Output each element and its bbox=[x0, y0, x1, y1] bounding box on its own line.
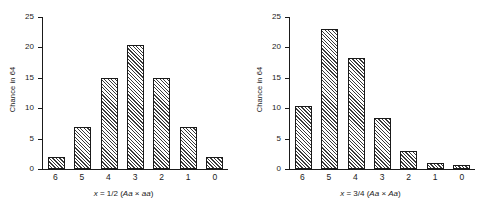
right-bar-slot bbox=[422, 18, 448, 169]
bar-3 bbox=[374, 118, 391, 169]
left-y-tick-label: 5 bbox=[30, 134, 34, 143]
right-y-tick-label: 20 bbox=[272, 42, 281, 51]
right-x-tick-label: 5 bbox=[316, 172, 343, 183]
left-x-tick-labels: 6543210 bbox=[42, 172, 228, 183]
right-caption-cross: × bbox=[379, 189, 388, 198]
right-panel: Chance in 64 0510152025 6543210 x = 3/4 … bbox=[247, 0, 494, 215]
right-x-tick-labels: 6543210 bbox=[289, 172, 475, 183]
right-x-tick-label: 2 bbox=[395, 172, 422, 183]
right-caption: x = 3/4 (Aa × Aa) bbox=[247, 188, 494, 199]
right-bar-slot bbox=[449, 18, 475, 169]
bar-5 bbox=[321, 29, 338, 169]
right-x-tick-label: 0 bbox=[448, 172, 475, 183]
right-caption-suffix: ) bbox=[398, 189, 401, 198]
left-plot-area: 0510152025 bbox=[42, 18, 228, 170]
left-bar-slot bbox=[175, 18, 201, 169]
left-y-tick-label: 20 bbox=[25, 42, 34, 51]
right-x-tick-label: 1 bbox=[422, 172, 449, 183]
right-bar-slot bbox=[396, 18, 422, 169]
bar-6 bbox=[48, 157, 65, 169]
bar-5 bbox=[74, 127, 91, 169]
bar-4 bbox=[101, 78, 118, 169]
left-bar-group bbox=[43, 18, 228, 169]
bar-1 bbox=[180, 127, 197, 169]
left-caption-suffix: ) bbox=[151, 189, 154, 198]
left-bar-slot bbox=[96, 18, 122, 169]
right-bar-slot bbox=[369, 18, 395, 169]
right-plot-area: 0510152025 bbox=[289, 18, 475, 170]
right-x-tick-label: 6 bbox=[289, 172, 316, 183]
two-panel-bar-chart-figure: Chance in 64 0510152025 6543210 x = 1/2 … bbox=[0, 0, 494, 215]
bar-0 bbox=[453, 165, 470, 169]
left-panel: Chance in 64 0510152025 6543210 x = 1/2 … bbox=[0, 0, 247, 215]
right-y-axis-title-text: Chance in 64 bbox=[256, 66, 265, 111]
left-x-tick-label: 5 bbox=[69, 172, 96, 183]
left-x-tick-label: 2 bbox=[148, 172, 175, 183]
left-y-tick-label: 10 bbox=[25, 103, 34, 112]
left-y-tick-label: 15 bbox=[25, 73, 34, 82]
right-caption-genotype-a: Aa bbox=[369, 189, 379, 198]
bar-2 bbox=[400, 151, 417, 169]
right-bar-group bbox=[290, 18, 475, 169]
left-caption-genotype-b: aa bbox=[142, 189, 151, 198]
right-x-axis-line bbox=[289, 169, 475, 170]
bar-2 bbox=[153, 78, 170, 169]
right-y-tick: 0 bbox=[285, 169, 290, 170]
left-y-tick-label: 0 bbox=[30, 164, 34, 173]
left-caption-genotype-a: Aa bbox=[123, 189, 133, 198]
right-bar-slot bbox=[343, 18, 369, 169]
bar-6 bbox=[295, 106, 312, 169]
right-y-tick-label: 10 bbox=[272, 103, 281, 112]
right-y-tick-label: 0 bbox=[277, 164, 281, 173]
bar-3 bbox=[127, 45, 144, 169]
right-bar-slot bbox=[290, 18, 316, 169]
right-caption-mid: = 3/4 ( bbox=[344, 189, 369, 198]
bar-1 bbox=[427, 163, 444, 169]
right-y-tick-label: 15 bbox=[272, 73, 281, 82]
left-bar-slot bbox=[202, 18, 228, 169]
left-y-tick-label: 25 bbox=[25, 12, 34, 21]
right-x-tick-label: 4 bbox=[342, 172, 369, 183]
left-y-tick: 0 bbox=[38, 169, 43, 170]
left-caption: x = 1/2 (Aa × aa) bbox=[0, 188, 247, 199]
left-x-tick-label: 6 bbox=[42, 172, 69, 183]
right-y-tick-label: 25 bbox=[272, 12, 281, 21]
left-y-axis-title: Chance in 64 bbox=[4, 0, 22, 178]
left-bar-slot bbox=[149, 18, 175, 169]
right-bar-slot bbox=[316, 18, 342, 169]
right-y-tick-label: 5 bbox=[277, 134, 281, 143]
left-bar-slot bbox=[122, 18, 148, 169]
left-bar-slot bbox=[69, 18, 95, 169]
bar-4 bbox=[348, 58, 365, 169]
left-x-tick-label: 0 bbox=[201, 172, 228, 183]
left-x-axis-line bbox=[42, 169, 228, 170]
left-x-tick-label: 3 bbox=[122, 172, 149, 183]
left-x-tick-label: 1 bbox=[175, 172, 202, 183]
right-x-tick-label: 3 bbox=[369, 172, 396, 183]
left-x-tick-label: 4 bbox=[95, 172, 122, 183]
right-caption-genotype-b: Aa bbox=[388, 189, 398, 198]
left-y-axis-title-text: Chance in 64 bbox=[9, 66, 18, 111]
left-caption-mid: = 1/2 ( bbox=[98, 189, 123, 198]
bar-0 bbox=[206, 157, 223, 169]
left-caption-cross: × bbox=[133, 189, 142, 198]
left-bar-slot bbox=[43, 18, 69, 169]
right-y-axis-title: Chance in 64 bbox=[251, 0, 269, 178]
